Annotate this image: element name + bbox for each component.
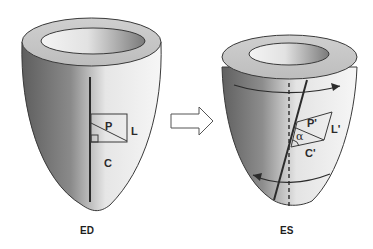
- ed-ventricle: P L C ED: [22, 18, 161, 236]
- ed-label-c: C: [104, 157, 112, 169]
- es-label-p: P': [307, 117, 317, 129]
- ed-ventricle-body: [22, 42, 161, 211]
- es-cavity: [249, 43, 329, 65]
- es-label-c: C': [305, 147, 316, 159]
- right-arrow-icon: [171, 107, 213, 135]
- ed-label-l: L: [131, 125, 138, 137]
- ed-cavity: [41, 28, 145, 54]
- es-label-l: L': [331, 123, 341, 135]
- diagram-canvas: P L C ED P' L' α C' ES: [0, 0, 373, 249]
- ed-label-p: P: [105, 120, 112, 132]
- ed-caption: ED: [80, 225, 94, 236]
- es-caption: ES: [280, 225, 294, 236]
- es-ventricle: P' L' α C' ES: [222, 35, 357, 236]
- es-label-alpha: α: [296, 130, 304, 143]
